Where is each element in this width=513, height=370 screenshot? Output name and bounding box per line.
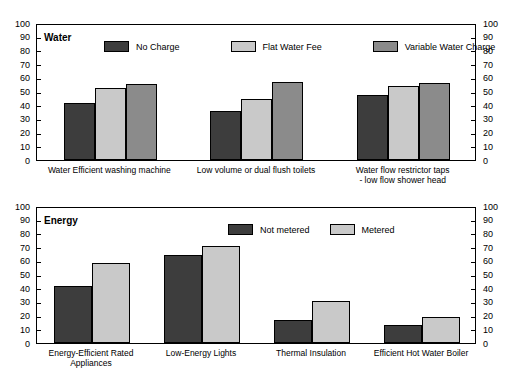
y-tick-label-right-90: 90	[483, 216, 507, 225]
bar-flat-water-fee	[95, 88, 126, 160]
y-tick-mark-right-80	[471, 51, 475, 52]
y-tick-mark-left-50	[37, 276, 41, 277]
water-legend: No Charge Flat Water Fee Variable Water …	[104, 41, 495, 52]
category-label: Low volume or dual flush toilets	[183, 165, 330, 175]
y-tick-label-right-60: 60	[483, 257, 507, 266]
y-tick-mark-right-70	[471, 248, 475, 249]
y-tick-label-right-30: 30	[483, 115, 507, 124]
y-tick-label-left-30: 30	[6, 115, 30, 124]
y-tick-mark-left-40	[37, 289, 41, 290]
y-tick-label-left-0: 0	[6, 340, 30, 349]
water-chart-title: Water	[44, 32, 71, 43]
y-tick-mark-left-90	[37, 38, 41, 39]
y-tick-mark-right-30	[471, 303, 475, 304]
y-tick-label-right-90: 90	[483, 33, 507, 42]
category-label: Water Efficient washing machine	[36, 165, 183, 175]
y-tick-label-right-0: 0	[483, 157, 507, 166]
y-tick-mark-left-70	[37, 65, 41, 66]
y-tick-label-right-80: 80	[483, 230, 507, 239]
y-tick-label-right-40: 40	[483, 285, 507, 294]
y-tick-mark-right-70	[471, 65, 475, 66]
legend-label-flat-water-fee: Flat Water Fee	[263, 42, 322, 52]
legend-label-variable-water-charge: Variable Water Charge	[405, 42, 496, 52]
legend-swatch-no-charge	[104, 41, 129, 52]
y-tick-label-left-70: 70	[6, 244, 30, 253]
y-tick-label-left-10: 10	[6, 143, 30, 152]
bar-flat-water-fee	[388, 86, 419, 160]
y-tick-mark-left-90	[37, 221, 41, 222]
legend-item-flat-water-fee: Flat Water Fee	[231, 41, 322, 52]
y-tick-mark-right-40	[471, 106, 475, 107]
y-tick-label-right-10: 10	[483, 326, 507, 335]
legend-item-metered: Metered	[330, 224, 395, 235]
legend-label-no-charge: No Charge	[136, 42, 180, 52]
y-tick-mark-left-20	[37, 317, 41, 318]
category-label: Low-Energy Lights	[146, 348, 256, 358]
y-tick-label-left-60: 60	[6, 257, 30, 266]
legend-label-metered: Metered	[362, 225, 395, 235]
y-tick-mark-right-60	[471, 262, 475, 263]
category-label: Efficient Hot Water Boiler	[366, 348, 476, 358]
bar-variable-water-charge	[126, 84, 157, 160]
y-tick-label-left-100: 100	[6, 203, 30, 212]
y-tick-label-right-100: 100	[483, 20, 507, 29]
y-tick-mark-right-10	[471, 330, 475, 331]
bar-not-metered	[164, 255, 202, 343]
bar-metered	[422, 317, 460, 343]
energy-chart-panel: Energy Not metered Metered 0010102020303…	[0, 190, 513, 370]
y-tick-mark-left-10	[37, 147, 41, 148]
y-tick-label-right-60: 60	[483, 74, 507, 83]
y-tick-mark-right-80	[471, 234, 475, 235]
y-tick-mark-right-50	[471, 276, 475, 277]
y-tick-label-right-30: 30	[483, 298, 507, 307]
bar-metered	[312, 301, 350, 343]
y-tick-mark-right-30	[471, 120, 475, 121]
y-tick-label-left-20: 20	[6, 129, 30, 138]
y-tick-label-left-40: 40	[6, 285, 30, 294]
y-tick-label-right-20: 20	[483, 312, 507, 321]
legend-item-variable-water-charge: Variable Water Charge	[373, 41, 496, 52]
y-tick-mark-left-10	[37, 330, 41, 331]
legend-label-not-metered: Not metered	[260, 225, 310, 235]
y-tick-mark-right-10	[471, 147, 475, 148]
y-tick-label-right-10: 10	[483, 143, 507, 152]
y-tick-label-left-60: 60	[6, 74, 30, 83]
y-tick-mark-left-50	[37, 93, 41, 94]
legend-swatch-flat-water-fee	[231, 41, 256, 52]
category-label: Energy-Efficient Rated Appliances	[36, 348, 146, 368]
y-tick-mark-right-90	[471, 221, 475, 222]
y-tick-mark-right-20	[471, 317, 475, 318]
y-tick-mark-left-70	[37, 248, 41, 249]
bar-variable-water-charge	[419, 83, 450, 160]
legend-swatch-metered	[330, 224, 355, 235]
y-tick-mark-right-20	[471, 134, 475, 135]
legend-item-not-metered: Not metered	[228, 224, 310, 235]
y-tick-label-left-80: 80	[6, 230, 30, 239]
y-tick-mark-right-40	[471, 289, 475, 290]
y-tick-label-left-90: 90	[6, 33, 30, 42]
y-tick-mark-left-20	[37, 134, 41, 135]
category-label: Thermal Insulation	[256, 348, 366, 358]
bar-variable-water-charge	[272, 82, 303, 160]
y-tick-label-left-80: 80	[6, 47, 30, 56]
y-tick-label-left-50: 50	[6, 88, 30, 97]
bar-group	[37, 208, 147, 343]
y-tick-label-left-0: 0	[6, 157, 30, 166]
bar-no-charge	[210, 111, 241, 160]
y-tick-label-right-70: 70	[483, 61, 507, 70]
legend-swatch-not-metered	[228, 224, 253, 235]
legend-swatch-variable-water-charge	[373, 41, 398, 52]
y-tick-mark-left-60	[37, 262, 41, 263]
legend-item-no-charge: No Charge	[104, 41, 180, 52]
energy-chart-title: Energy	[44, 215, 78, 226]
y-tick-mark-left-80	[37, 234, 41, 235]
y-tick-label-right-40: 40	[483, 102, 507, 111]
bar-no-charge	[357, 95, 388, 160]
bar-flat-water-fee	[241, 99, 272, 160]
bar-metered	[202, 246, 240, 343]
bar-not-metered	[54, 286, 92, 343]
y-tick-label-left-70: 70	[6, 61, 30, 70]
energy-legend: Not metered Metered	[228, 224, 395, 235]
y-tick-label-left-100: 100	[6, 20, 30, 29]
water-chart-panel: Water No Charge Flat Water Fee Variable …	[0, 0, 513, 190]
